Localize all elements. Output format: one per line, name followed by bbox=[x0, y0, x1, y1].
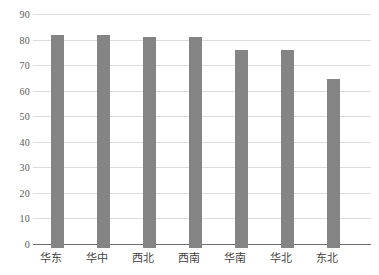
y-axis-tick-label: 20 bbox=[4, 189, 30, 199]
y-axis-tick-label: 80 bbox=[4, 36, 30, 46]
bar-huazhong bbox=[97, 35, 110, 248]
y-axis-tick-label: 40 bbox=[4, 138, 30, 148]
x-axis-tick-label-dongbei: 东北 bbox=[304, 252, 350, 265]
bar-huanan bbox=[235, 50, 248, 248]
bar-chart: 90 80 70 60 50 40 30 20 10 0 华东 华中 西北 bbox=[0, 0, 379, 275]
bar-huadong bbox=[51, 35, 64, 248]
bar-dongbei bbox=[327, 79, 340, 248]
x-axis-tick-label-huabei: 华北 bbox=[258, 252, 304, 265]
y-axis-tick-labels: 90 80 70 60 50 40 30 20 10 0 bbox=[0, 10, 30, 256]
y-axis-tick-label: 10 bbox=[4, 214, 30, 224]
y-axis-tick-label: 70 bbox=[4, 61, 30, 71]
bar-huabei bbox=[281, 50, 294, 248]
y-axis-tick-label: 60 bbox=[4, 87, 30, 97]
x-axis-tick-label-huadong: 华东 bbox=[28, 252, 74, 265]
x-axis-tick-label-xibei: 西北 bbox=[120, 252, 166, 265]
bar-xibei bbox=[143, 37, 156, 248]
bars-layer bbox=[33, 10, 371, 248]
bar-xinan bbox=[189, 37, 202, 248]
x-axis-tick-label-huanan: 华南 bbox=[212, 252, 258, 265]
y-axis-tick-label: 0 bbox=[4, 240, 30, 250]
y-axis-tick-label: 50 bbox=[4, 112, 30, 122]
y-axis-tick-label: 30 bbox=[4, 163, 30, 173]
y-axis-tick-label: 90 bbox=[4, 10, 30, 20]
x-axis-tick-label-xinan: 西南 bbox=[166, 252, 212, 265]
x-axis-tick-label-huazhong: 华中 bbox=[74, 252, 120, 265]
